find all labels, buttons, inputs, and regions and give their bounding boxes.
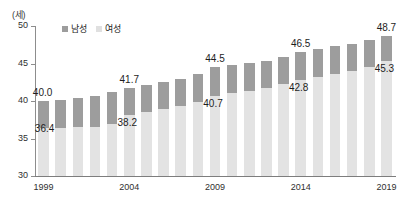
bar-group[interactable]: [141, 26, 152, 176]
data-label-male: 40.0: [33, 87, 52, 98]
bar-segment-male: [124, 88, 135, 114]
bar-group[interactable]: [278, 26, 289, 176]
bar-group[interactable]: [55, 26, 66, 176]
bar-segment-male: [330, 46, 341, 74]
y-tick-label: 30: [18, 170, 28, 181]
y-axis-tick: 30: [0, 176, 35, 177]
bar-group[interactable]: [364, 26, 375, 176]
x-axis-tick-label: 1999: [34, 182, 54, 192]
bar-segment-female: [278, 84, 289, 176]
bar-group[interactable]: [175, 26, 186, 176]
bar-group[interactable]: [107, 26, 118, 176]
y-axis-tick: 35: [0, 139, 35, 140]
bar-segment-female: [73, 127, 84, 176]
bar-group[interactable]: [313, 26, 324, 176]
data-label-female: 42.8: [289, 82, 308, 93]
bar-group[interactable]: [227, 26, 238, 176]
bar-segment-female: [244, 91, 255, 177]
data-label-female: 40.7: [203, 98, 222, 109]
bar-group[interactable]: [38, 26, 49, 176]
bar-segment-female: [90, 127, 101, 177]
y-axis-tick: 45: [0, 64, 35, 65]
bar-segment-male: [158, 82, 169, 109]
bar-segment-female: [107, 124, 118, 177]
bar-segment-male: [244, 63, 255, 91]
bar-group[interactable]: [261, 26, 272, 176]
y-tick-label: 35: [18, 133, 28, 144]
bar-segment-female: [261, 88, 272, 177]
bar-group[interactable]: [124, 26, 135, 176]
data-label-male: 48.7: [377, 22, 396, 33]
bar-segment-female: [141, 112, 152, 177]
data-label-male: 46.5: [291, 38, 310, 49]
bar-group[interactable]: [158, 26, 169, 176]
bar-segment-male: [55, 100, 66, 128]
bar-segment-female: [38, 128, 49, 176]
bar-segment-male: [227, 65, 238, 93]
data-label-male: 44.5: [205, 53, 224, 64]
bar-segment-male: [175, 79, 186, 107]
x-axis-tick-label: 2004: [119, 182, 139, 192]
bar-segment-male: [381, 36, 392, 62]
data-label-female: 45.3: [375, 63, 394, 74]
bar-segment-male: [90, 96, 101, 127]
bar-segment-male: [141, 85, 152, 111]
bar-segment-female: [158, 109, 169, 176]
bar-segment-male: [107, 92, 118, 124]
x-axis-tick-label: 2009: [205, 182, 225, 192]
bar-group[interactable]: [90, 26, 101, 176]
x-axis-tick-label: 2014: [291, 182, 311, 192]
bar-group[interactable]: [347, 26, 358, 176]
y-axis-tick: 40: [0, 101, 35, 102]
y-axis-tick: 50: [0, 26, 35, 27]
bar-segment-male: [278, 57, 289, 84]
bar-segment-female: [364, 67, 375, 177]
bar-group[interactable]: [193, 26, 204, 176]
data-label-male: 41.7: [120, 74, 139, 85]
y-tick-label: 40: [18, 95, 28, 106]
x-axis-tick-label: 2019: [376, 182, 396, 192]
bar-segment-female: [175, 106, 186, 176]
bar-segment-male: [347, 44, 358, 71]
bar-group[interactable]: [244, 26, 255, 176]
bar-segment-female: [347, 71, 358, 176]
bar-segment-male: [210, 67, 221, 96]
bar-segment-female: [295, 80, 306, 176]
bar-segment-female: [193, 102, 204, 176]
y-tick-label: 50: [18, 20, 28, 31]
data-label-female: 38.2: [118, 117, 137, 128]
bar-segment-female: [330, 74, 341, 176]
bar-segment-male: [193, 74, 204, 102]
bar-segment-male: [313, 49, 324, 77]
bar-segment-female: [381, 61, 392, 176]
chart-container: (세) 남성 여성 3035404550 1999200420092014201…: [0, 0, 403, 209]
bar-segment-male: [364, 40, 375, 66]
bar-segment-female: [313, 77, 324, 176]
bar-segment-male: [295, 52, 306, 80]
bar-segment-female: [227, 93, 238, 176]
bar-segment-male: [73, 98, 84, 127]
bar-group[interactable]: [381, 26, 392, 176]
x-axis-line: [35, 176, 396, 177]
bar-segment-male: [261, 61, 272, 88]
bar-group[interactable]: [330, 26, 341, 176]
y-tick-label: 45: [18, 58, 28, 69]
bar-group[interactable]: [73, 26, 84, 176]
data-label-female: 36.4: [35, 123, 54, 134]
bar-segment-female: [55, 128, 66, 176]
